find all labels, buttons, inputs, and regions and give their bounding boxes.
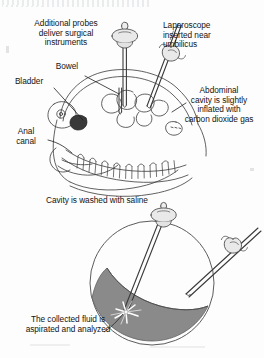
label-cavity-washed: Cavity is washed with saline xyxy=(46,196,176,206)
illustration-canvas: Additional probes deliver surgical instr… xyxy=(0,0,264,358)
label-bladder: Bladder xyxy=(4,77,54,87)
label-abdominal-cavity: Abdominal cavity is slightly inflated wi… xyxy=(176,86,262,124)
label-laparoscope: Laparoscope inserted near umbilicus xyxy=(163,21,259,50)
lower-panel-artwork xyxy=(0,0,264,358)
label-bowel: Bowel xyxy=(44,62,90,72)
label-additional-probes: Additional probes deliver surgical instr… xyxy=(12,19,120,48)
aspiration-tip xyxy=(124,310,128,314)
label-collected-fluid: The collected fluid is aspirated and ana… xyxy=(14,315,122,334)
label-anal-canal: Anal canal xyxy=(8,127,44,146)
